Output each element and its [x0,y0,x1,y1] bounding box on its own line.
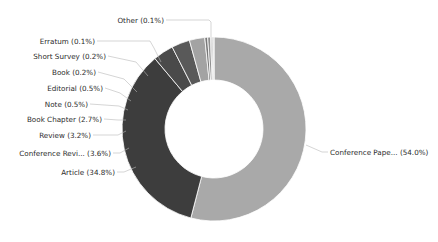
slice-label-editorial: Editorial (0.5%) [47,84,103,93]
slice-label-note: Note (0.5%) [45,100,88,109]
pie-slice[interactable] [213,37,214,80]
slice-label-article: Article (34.8%) [61,168,115,177]
slice-label-book: Book (0.2%) [52,68,96,77]
slice-label-short-survey: Short Survey (0.2%) [33,52,106,61]
donut-chart: Conference Pape... (54.0%) Article (34.8… [0,0,438,242]
leader-line-other [166,20,211,37]
slice-label-conference-paper: Conference Pape... (54.0%) [330,148,429,157]
slice-label-book-chapter: Book Chapter (2.7%) [27,115,102,124]
slice-label-erratum: Erratum (0.1%) [40,37,95,46]
slice-label-review: Review (3.2%) [39,131,91,140]
leader-line-review [93,131,126,135]
slice-label-other: Other (0.1%) [117,16,164,25]
leader-line-conference-paper [306,145,328,152]
slice-label-conference-review: Conference Revi... (3.6%) [19,149,111,158]
leader-line-note [90,104,128,110]
donut-chart-svg: Conference Pape... (54.0%) Article (34.8… [0,0,438,242]
leader-line-erratum [97,41,161,62]
pie-slices-group [122,37,306,221]
